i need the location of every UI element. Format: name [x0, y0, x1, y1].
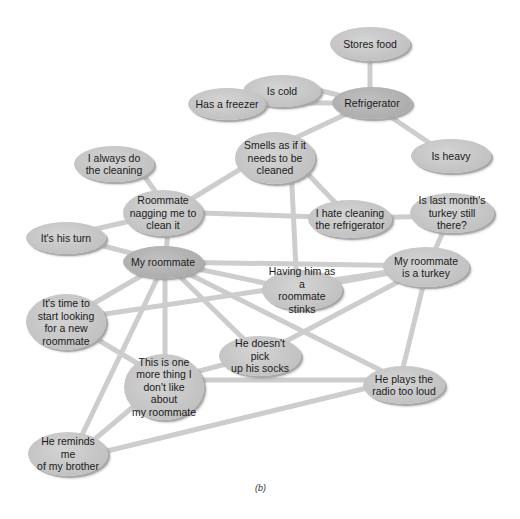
node-nagging: Roommate nagging me to clean it — [123, 190, 203, 236]
node-my-roommate: My roommate — [123, 246, 203, 278]
node-socks: He doesn't pick up his socks — [219, 336, 301, 376]
node-radio: He plays the radio too loud — [363, 366, 445, 404]
node-is-heavy: Is heavy — [411, 139, 491, 173]
node-his-turn: It's his turn — [26, 222, 106, 254]
node-turkey-question: Is last month's turkey still there? — [410, 193, 494, 233]
node-new-roommate: It's time to start looking for a new roo… — [26, 294, 106, 350]
node-brother: He reminds me of my brother — [28, 432, 108, 476]
node-has-freezer: Has a freezer — [188, 88, 266, 120]
node-one-more: This is one more thing I don't like abou… — [124, 354, 204, 420]
node-always-clean: I always do the cleaning — [74, 146, 154, 182]
node-having-him: Having him as a roommate stinks — [262, 270, 342, 310]
node-smells: Smells as if it needs to be cleaned — [235, 132, 315, 184]
figure-caption: (b) — [255, 483, 266, 493]
node-stores-food: Stores food — [330, 27, 410, 61]
node-hate-cleaning: I hate cleaning the refrigerator — [308, 200, 392, 238]
node-roommate-turkey: My roommate is a turkey — [383, 247, 469, 287]
node-refrigerator: Refrigerator — [332, 87, 412, 119]
